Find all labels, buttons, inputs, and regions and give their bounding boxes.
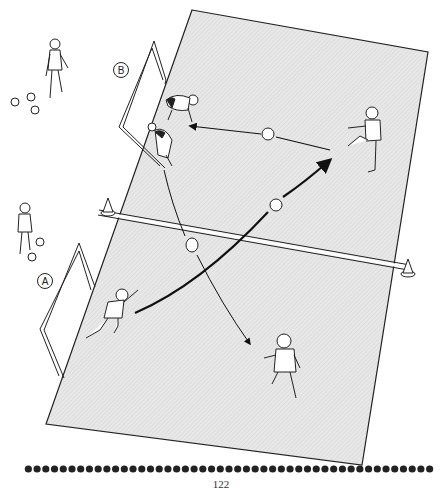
bead <box>121 465 128 472</box>
bead <box>60 465 67 472</box>
svg-text:B: B <box>118 65 125 76</box>
player-waiting-a <box>18 203 32 254</box>
cone-icon <box>101 198 115 216</box>
bead <box>382 465 389 472</box>
bead <box>95 465 102 472</box>
bead <box>25 465 32 472</box>
bead <box>269 465 276 472</box>
bead <box>173 465 180 472</box>
bead <box>217 465 224 472</box>
bead <box>234 465 241 472</box>
bead <box>68 465 75 472</box>
bead <box>243 465 250 472</box>
bead <box>365 465 372 472</box>
bead <box>426 465 433 472</box>
bead <box>260 465 267 472</box>
bead <box>321 465 328 472</box>
bead <box>33 465 40 472</box>
bead <box>348 465 355 472</box>
bead <box>42 465 49 472</box>
goal-b-label: B <box>114 63 129 78</box>
bead <box>138 465 145 472</box>
bead <box>225 465 232 472</box>
bead <box>356 465 363 472</box>
bead <box>199 465 206 472</box>
bead <box>278 465 285 472</box>
player-waiting-b <box>46 39 68 98</box>
cone-icon <box>401 259 415 277</box>
bead <box>182 465 189 472</box>
bead <box>112 465 119 472</box>
bead <box>330 465 337 472</box>
bead <box>286 465 293 472</box>
bead <box>129 465 136 472</box>
bead-border <box>24 464 434 474</box>
svg-text:A: A <box>42 276 49 287</box>
bead <box>86 465 93 472</box>
bead <box>252 465 259 472</box>
bead <box>409 465 416 472</box>
bead <box>339 465 346 472</box>
bead <box>313 465 320 472</box>
bead <box>164 465 171 472</box>
bead <box>156 465 163 472</box>
bead <box>374 465 381 472</box>
bead <box>295 465 302 472</box>
goal-a-label: A <box>38 274 53 289</box>
page-number: 122 <box>0 478 442 490</box>
bead <box>208 465 215 472</box>
bead <box>400 465 407 472</box>
bead <box>304 465 311 472</box>
bead <box>391 465 398 472</box>
bead <box>103 465 110 472</box>
spare-balls-b <box>11 93 39 114</box>
bead <box>77 465 84 472</box>
bead <box>417 465 424 472</box>
bead <box>51 465 58 472</box>
bead <box>191 465 198 472</box>
bead <box>147 465 154 472</box>
